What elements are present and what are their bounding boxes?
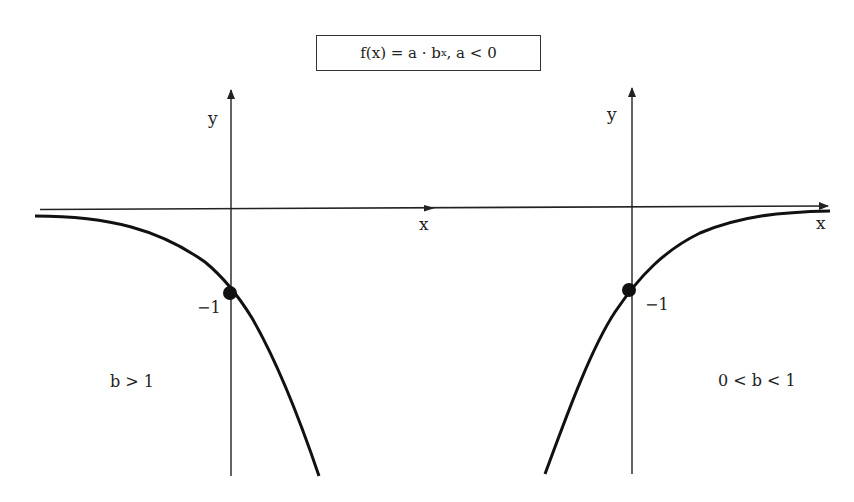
right-condition-label: 0 < b < 1 [718, 371, 796, 390]
right-graph: y x −1 0 < b < 1 [545, 88, 830, 474]
right-intercept-point [622, 283, 636, 297]
exponential-graphs-diagram: y x −1 b > 1 y x −1 0 < b < 1 [0, 0, 854, 502]
right-curve [545, 211, 830, 474]
right-y-label: y [606, 104, 617, 124]
left-intercept-label: −1 [197, 298, 221, 317]
left-x-axis-arrow-icon [424, 205, 435, 212]
right-intercept-label: −1 [645, 295, 669, 314]
left-x-label: x [419, 214, 429, 234]
left-intercept-point [223, 286, 237, 300]
left-condition-label: b > 1 [110, 372, 154, 391]
right-x-label: x [816, 213, 826, 233]
left-y-label: y [207, 108, 218, 128]
left-graph: y x −1 b > 1 [35, 90, 429, 476]
left-curve [35, 216, 319, 476]
x-axis-shared [40, 205, 828, 212]
